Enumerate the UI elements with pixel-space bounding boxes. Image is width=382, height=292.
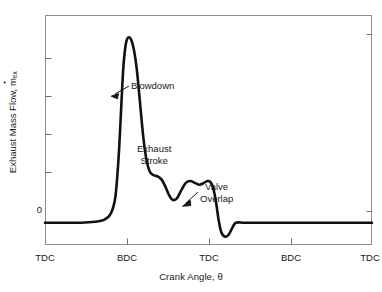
chart-figure: Exhaust Mass Flow, mex 0 TDC BDC TDC BDC… [0, 0, 382, 292]
chart-plot-svg [0, 0, 382, 292]
annotation-blowdown-line-1: Blowdown [131, 80, 174, 92]
y-axis-ticks-right [367, 35, 372, 212]
x-tick-label-tdc-1: TDC [35, 252, 55, 263]
y-axis-ticks [46, 59, 52, 173]
annotation-valve-overlap: Valve Overlap [200, 181, 233, 204]
x-tick-label-bdc-1: BDC [117, 252, 137, 263]
plot-frame [46, 16, 372, 245]
y-axis-title-symbol: m [8, 78, 18, 86]
annotation-valve-overlap-line-2: Overlap [200, 193, 233, 205]
exhaust-mass-flow-curve [45, 37, 372, 237]
overdot-icon [3, 81, 5, 83]
y-axis-title: Exhaust Mass Flow, mex [0, 0, 26, 245]
x-tick-label-tdc-3: TDC [360, 252, 380, 263]
annotation-exhaust-stroke: Exhaust Stroke [137, 143, 171, 166]
blowdown-arrowhead [111, 94, 118, 99]
x-axis-ticks [128, 239, 292, 245]
annotation-exhaust-stroke-line-1: Exhaust [137, 143, 171, 155]
y-axis-title-text: Exhaust Mass Flow, [7, 86, 18, 173]
valve-overlap-arrowhead [183, 200, 191, 206]
x-axis-title: Crank Angle, θ [0, 271, 382, 282]
x-tick-label-bdc-2: BDC [281, 252, 301, 263]
y-axis-symbol-letter: m [7, 78, 18, 86]
y-axis-zero-label: 0 [30, 204, 42, 215]
valve-overlap-leader-line [186, 192, 198, 203]
annotation-exhaust-stroke-line-2: Stroke [137, 155, 171, 167]
annotation-blowdown: Blowdown [131, 80, 174, 92]
annotation-valve-overlap-line-1: Valve [200, 181, 233, 193]
x-tick-label-tdc-2: TDC [199, 252, 219, 263]
